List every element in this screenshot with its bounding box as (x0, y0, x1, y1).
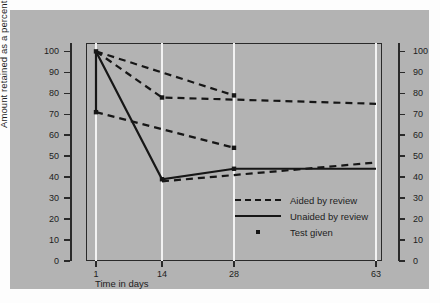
y-tick-label-right-90: 90 (413, 68, 437, 77)
x-axis-label: Time in days (95, 278, 149, 289)
y-tick-right-0 (399, 260, 405, 262)
series-line-4 (96, 51, 376, 179)
legend-label-unaided: Unaided by review (284, 211, 368, 222)
y-tick-label-left-90: 90 (37, 68, 59, 77)
chart-panel-background: Amount retained as a percentage of amoun… (10, 10, 429, 289)
legend-label-test-given: Test given (284, 227, 333, 238)
test-given-marker-3 (160, 177, 164, 181)
chart-figure: Amount retained as a percentage of amoun… (0, 0, 440, 303)
y-tick-label-left-20: 20 (37, 215, 59, 224)
y-tick-label-right-60: 60 (413, 131, 437, 140)
y-tick-label-right-30: 30 (413, 194, 437, 203)
x-tick-1 (95, 261, 97, 267)
y-tick-right-40 (399, 176, 405, 178)
chart-legend: Aided by review Unaided by review Test g… (232, 192, 382, 240)
y-tick-label-left-40: 40 (37, 173, 59, 182)
y-tick-left-40 (64, 176, 70, 178)
y-tick-left-50 (64, 155, 70, 157)
legend-item-unaided: Unaided by review (232, 208, 382, 224)
test-given-marker-5 (232, 146, 236, 150)
y-tick-left-90 (64, 72, 70, 74)
y-tick-label-right-20: 20 (413, 215, 437, 224)
y-tick-right-70 (399, 114, 405, 116)
y-tick-right-10 (399, 239, 405, 241)
y-tick-left-0 (64, 260, 70, 262)
y-axis-left (70, 43, 72, 261)
y-tick-right-60 (399, 134, 405, 136)
y-tick-left-30 (64, 197, 70, 199)
legend-item-test-given: Test given (232, 224, 382, 240)
x-tick-label-28: 28 (222, 270, 246, 279)
y-tick-label-left-30: 30 (37, 194, 59, 203)
y-tick-left-10 (64, 239, 70, 241)
legend-item-aided: Aided by review (232, 192, 382, 208)
y-tick-label-right-40: 40 (413, 173, 437, 182)
test-given-marker-2 (160, 95, 164, 99)
y-tick-right-80 (399, 93, 405, 95)
test-given-marker-4 (232, 93, 236, 97)
y-tick-right-100 (399, 51, 405, 53)
y-tick-label-left-60: 60 (37, 131, 59, 140)
y-axis-label: Amount retained as a percentage of amoun… (0, 0, 9, 128)
y-axis-right (398, 43, 400, 261)
y-tick-label-left-80: 80 (37, 89, 59, 98)
legend-label-aided: Aided by review (284, 195, 357, 206)
y-tick-label-left-0: 0 (37, 257, 59, 266)
test-given-marker-0 (94, 49, 98, 53)
dot-marker-icon (232, 230, 284, 234)
y-tick-label-right-80: 80 (413, 89, 437, 98)
series-line-1 (96, 51, 234, 95)
y-tick-right-30 (399, 197, 405, 199)
y-tick-label-right-70: 70 (413, 110, 437, 119)
y-tick-label-right-0: 0 (413, 257, 437, 266)
x-tick-63 (375, 261, 377, 267)
solid-line-icon (232, 215, 284, 217)
y-tick-label-right-10: 10 (413, 236, 437, 245)
y-tick-right-50 (399, 155, 405, 157)
y-tick-left-80 (64, 93, 70, 95)
dashed-line-icon (232, 199, 284, 201)
y-tick-right-90 (399, 72, 405, 74)
series-line-2 (96, 112, 234, 148)
x-tick-label-14: 14 (150, 270, 174, 279)
y-tick-left-20 (64, 218, 70, 220)
x-tick-label-63: 63 (364, 270, 388, 279)
y-tick-label-right-100: 100 (413, 47, 437, 56)
y-tick-left-100 (64, 51, 70, 53)
x-tick-28 (233, 261, 235, 267)
y-tick-label-left-100: 100 (37, 47, 59, 56)
y-tick-left-60 (64, 134, 70, 136)
test-given-marker-6 (232, 167, 236, 171)
test-given-marker-1 (94, 110, 98, 114)
x-tick-14 (161, 261, 163, 267)
y-tick-left-70 (64, 114, 70, 116)
series-line-3 (162, 162, 376, 181)
y-tick-label-left-70: 70 (37, 110, 59, 119)
y-tick-label-left-50: 50 (37, 152, 59, 161)
y-tick-label-right-50: 50 (413, 152, 437, 161)
y-tick-label-left-10: 10 (37, 236, 59, 245)
y-tick-right-20 (399, 218, 405, 220)
